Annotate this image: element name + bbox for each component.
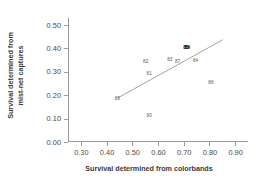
x-tick-label: 0.70 [177,148,191,157]
y-tick-label: 0.30 [47,67,61,76]
y-axis-title: Survival determined from mist-net captur… [0,0,30,150]
y-tick-label: 0.50 [47,21,61,30]
y-axis-title-line-1: Survival determined from [6,32,16,119]
x-tick: 0.50 [132,142,133,146]
y-tick-label: 0.10 [47,114,61,123]
x-tick-label: 0.40 [100,148,114,157]
x-tick: 0.90 [235,142,236,146]
y-tick-label: 0.20 [47,91,61,100]
plot-area: 0.000.100.200.300.400.50 0.300.400.500.6… [68,18,248,142]
x-tick: 0.30 [81,142,82,146]
data-point-label: 89 [184,44,190,50]
x-tick-label: 0.30 [74,148,88,157]
y-tick: 0.00 [64,142,68,143]
x-tick-label: 0.60 [151,148,165,157]
data-point-label: 86 [208,80,213,85]
x-tick-label: 0.50 [126,148,140,157]
scatter-plot-figure: Survival determined from mist-net captur… [0,0,273,184]
x-tick-label: 0.90 [228,148,242,157]
data-point-label: 81 [147,70,152,75]
data-point-label: 90 [147,112,152,117]
x-tick: 0.40 [107,142,108,146]
x-tick: 0.80 [209,142,210,146]
y-tick-label: 0.00 [47,138,61,147]
data-point-label: 83 [167,56,172,61]
data-point-label: 82 [143,58,148,63]
data-point-labels: 88828190838785898486 [68,18,248,142]
x-tick-label: 0.80 [203,148,217,157]
y-tick-label: 0.40 [47,44,61,53]
data-point-label: 84 [193,58,198,63]
data-point-label: 88 [115,95,120,100]
x-tick: 0.70 [184,142,185,146]
y-axis-title-line-2: mist-net captures [15,32,25,119]
data-point-label: 87 [175,58,180,63]
x-tick: 0.60 [158,142,159,146]
x-axis-title: Survival determined from colorbands [30,164,268,173]
